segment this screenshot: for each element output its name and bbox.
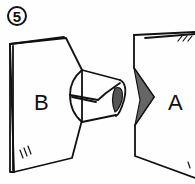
diagram-canvas: 5 B A [0, 0, 195, 184]
panel-a-label: A [168, 92, 183, 114]
folded-tab [70, 70, 125, 122]
panel-a-shape [134, 32, 195, 178]
line-art [0, 0, 195, 184]
panel-b-label: B [34, 92, 49, 114]
step-number-badge: 5 [7, 6, 27, 26]
